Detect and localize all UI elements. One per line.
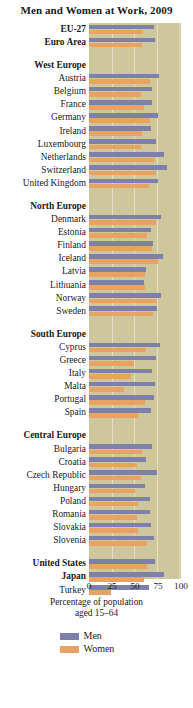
table-row: Germany <box>0 112 193 125</box>
table-row: Iceland <box>0 253 193 266</box>
bar-men <box>89 280 144 285</box>
bar-men <box>89 395 154 400</box>
category-label: Denmark <box>0 215 89 224</box>
bar-cell <box>89 98 181 111</box>
bar-men <box>89 457 146 462</box>
row-spacer <box>0 190 193 200</box>
category-label: Finland <box>0 241 89 250</box>
table-row: Ireland <box>0 125 193 138</box>
table-row: Norway <box>0 292 193 305</box>
category-label: Latvia <box>0 267 89 276</box>
bar-cell <box>89 393 181 406</box>
bar-women <box>89 233 147 238</box>
legend-label-women: Women <box>84 644 115 654</box>
bar-men <box>89 267 146 272</box>
bar-cell <box>89 72 181 85</box>
x-tick-100: 100 <box>174 581 188 591</box>
bar-men <box>89 152 164 157</box>
bar-men <box>89 470 157 475</box>
bar-men <box>89 306 157 311</box>
category-label: Croatia <box>0 458 89 467</box>
bar-women <box>89 220 156 225</box>
bar-cell <box>89 305 181 318</box>
bar-cell <box>89 239 181 252</box>
table-row: United States <box>0 557 193 570</box>
category-label: Cyprus <box>0 343 89 352</box>
bar-men <box>89 228 151 233</box>
bar-women <box>89 413 138 418</box>
row-spacer <box>0 547 193 557</box>
bar-women <box>89 463 137 468</box>
bar-cell <box>89 177 181 190</box>
bar-men <box>89 497 150 502</box>
bar-women <box>89 158 154 163</box>
table-row: Czech Republic <box>0 469 193 482</box>
bar-men <box>89 38 155 43</box>
bar-men <box>89 536 154 541</box>
legend-swatch-men <box>60 633 79 640</box>
bar-women <box>89 246 152 251</box>
table-row: Poland <box>0 495 193 508</box>
table-row: Slovenia <box>0 534 193 547</box>
table-row: Luxembourg <box>0 138 193 151</box>
table-row: Greece <box>0 354 193 367</box>
table-row: Bulgaria <box>0 443 193 456</box>
x-tick-0: 0 <box>87 581 92 591</box>
x-tick-50: 50 <box>130 581 139 591</box>
bar-men <box>89 444 152 449</box>
bar-cell <box>89 328 181 341</box>
bar-cell <box>89 341 181 354</box>
bar-men <box>89 369 152 374</box>
table-row: Hungary <box>0 482 193 495</box>
bar-women <box>89 43 142 48</box>
bar-women <box>89 374 131 379</box>
row-spacer <box>0 49 193 59</box>
bar-men <box>89 165 167 170</box>
plot-area: EU-27Euro AreaWest EuropeAustriaBelgiumF… <box>0 23 193 579</box>
bar-women <box>89 131 142 136</box>
legend-item-women: Women <box>60 644 134 654</box>
category-label: EU-27 <box>0 25 89 34</box>
bar-men <box>89 356 156 361</box>
bar-women <box>89 515 137 520</box>
group-heading-label: South Europe <box>0 330 89 339</box>
bar-cell <box>89 164 181 177</box>
bar-cell <box>89 138 181 151</box>
bar-cell <box>89 367 181 380</box>
bar-women <box>89 184 149 189</box>
category-label: Euro Area <box>0 38 89 47</box>
bar-women <box>89 171 156 176</box>
bar-cell <box>89 430 181 443</box>
group-heading-row: Central Europe <box>0 430 193 443</box>
bar-men <box>89 87 152 92</box>
bar-men <box>89 113 158 118</box>
bar-women <box>89 312 153 317</box>
row-spacer <box>0 318 193 328</box>
bar-cell <box>89 292 181 305</box>
bar-men <box>89 343 160 348</box>
bar-cell <box>89 151 181 164</box>
bar-cell <box>89 354 181 367</box>
group-heading-row: South Europe <box>0 328 193 341</box>
group-heading-row: North Europe <box>0 200 193 213</box>
table-row: Finland <box>0 239 193 252</box>
bar-women <box>89 450 142 455</box>
bar-women <box>89 272 145 277</box>
bar-cell <box>89 200 181 213</box>
category-label: Iceland <box>0 254 89 263</box>
table-row: Sweden <box>0 305 193 318</box>
bar-men <box>89 510 150 515</box>
bar-cell <box>89 125 181 138</box>
bar-men <box>89 25 154 30</box>
bar-men <box>89 254 163 259</box>
bar-women <box>89 476 141 481</box>
bar-rows: EU-27Euro AreaWest EuropeAustriaBelgiumF… <box>0 23 193 597</box>
bar-women <box>89 30 143 35</box>
bar-women <box>89 400 145 405</box>
group-heading-label: Central Europe <box>0 431 89 440</box>
bar-men <box>89 559 155 564</box>
bar-women <box>89 259 158 264</box>
x-tick-25: 25 <box>107 581 116 591</box>
category-label: Portugal <box>0 395 89 404</box>
chart-title: Men and Women at Work, 2009 <box>0 0 193 17</box>
